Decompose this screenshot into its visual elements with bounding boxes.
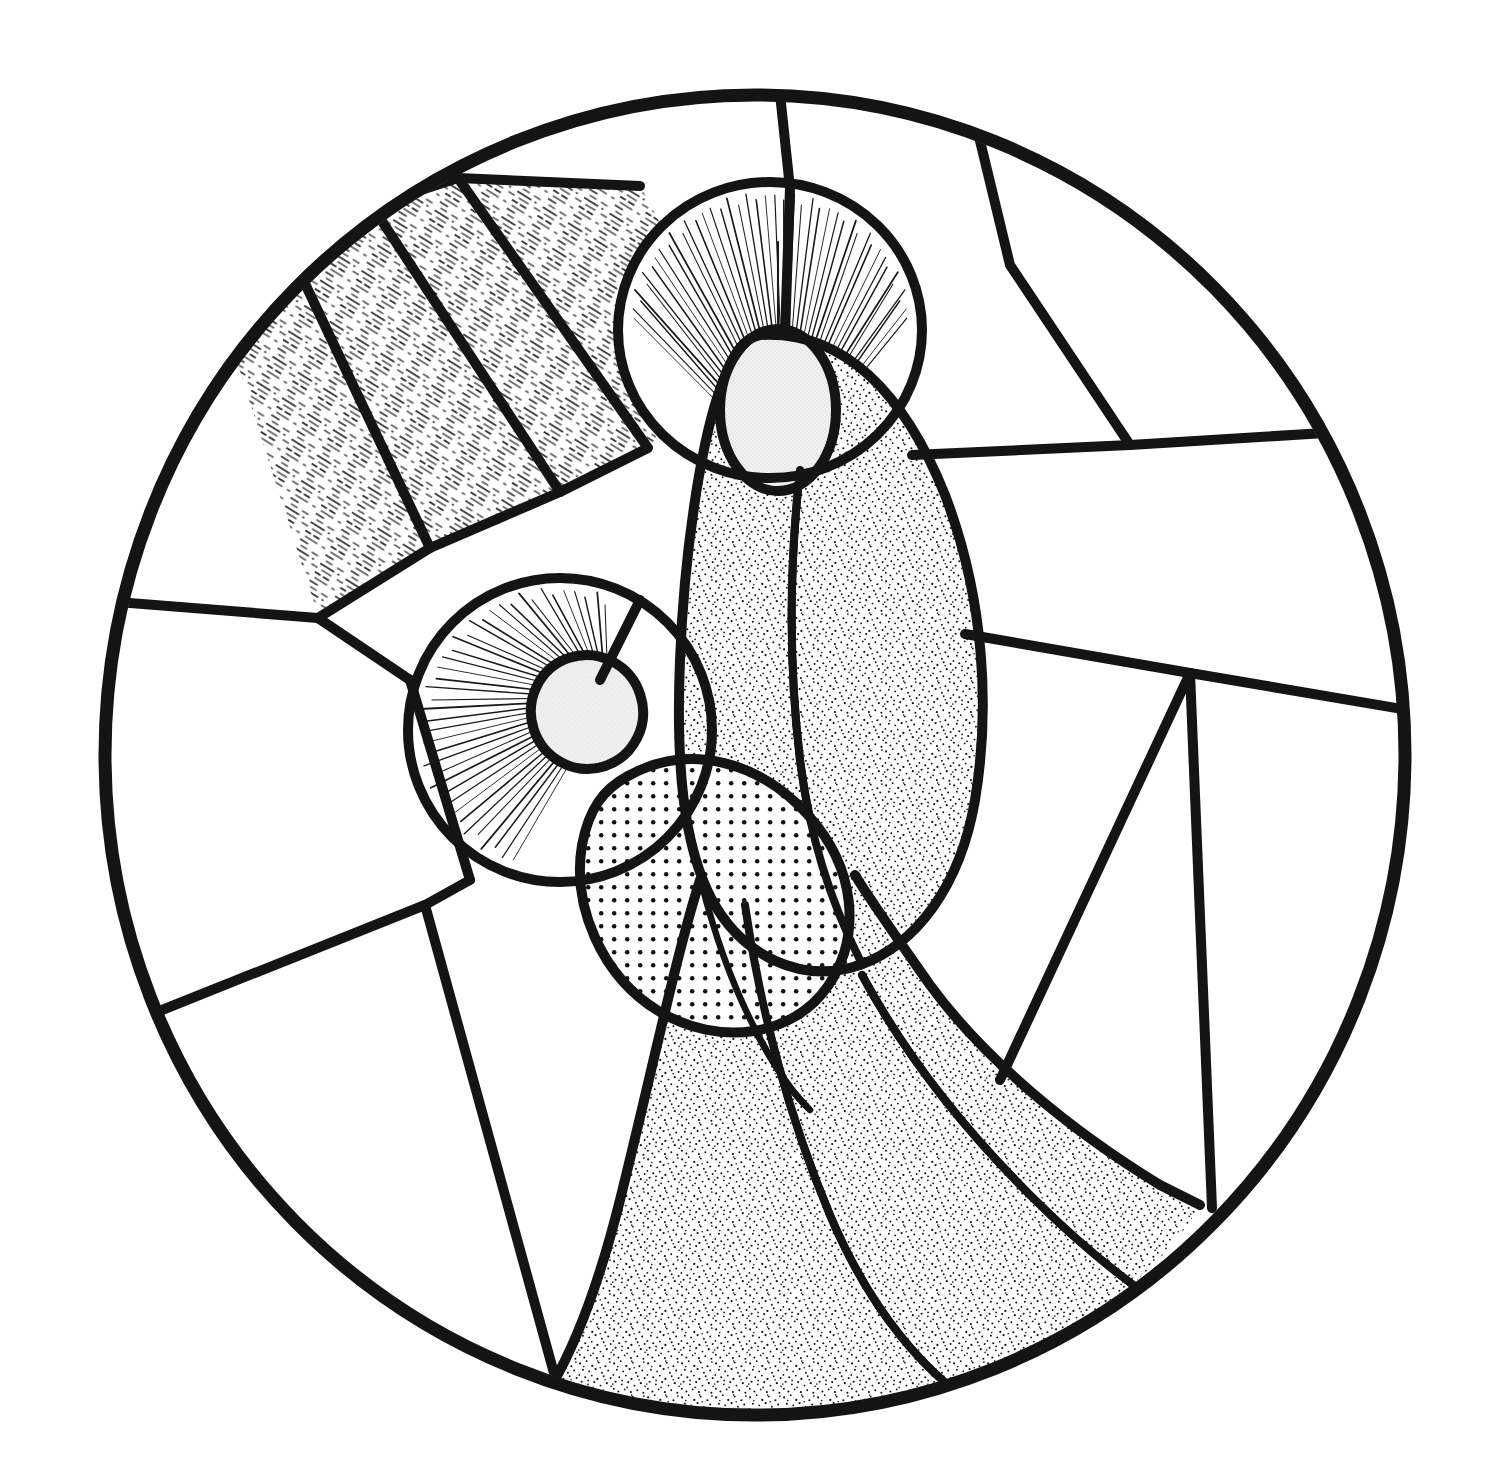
lead-upper-halo-divider	[785, 188, 790, 335]
artwork-root: Stained Glass Medallion — Two Haloed Fig…	[0, 0, 1512, 1483]
stained-glass-drawing: Stained Glass Medallion — Two Haloed Fig…	[0, 0, 1512, 1483]
